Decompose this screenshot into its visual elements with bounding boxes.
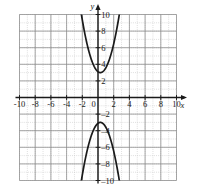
x-tick-label: -6 bbox=[47, 99, 54, 109]
graph-figure: -10-8-6-4-22468100–10–8–6–4–2246810xy bbox=[0, 0, 197, 193]
x-tick-label: 10 bbox=[172, 99, 181, 109]
y-tick-label: –8 bbox=[100, 159, 110, 169]
y-tick-label: –2 bbox=[100, 109, 110, 119]
coordinate-plane: -10-8-6-4-22468100–10–8–6–4–2246810xy bbox=[0, 0, 197, 193]
x-tick-label: 2 bbox=[112, 99, 116, 109]
y-tick-label: 6 bbox=[101, 43, 105, 53]
x-tick-label: 8 bbox=[159, 99, 163, 109]
x-tick-label: 6 bbox=[143, 99, 147, 109]
origin-label: 0 bbox=[91, 99, 95, 109]
y-tick-label: 2 bbox=[101, 76, 105, 86]
x-axis-variable-label: x bbox=[180, 100, 185, 110]
y-axis-variable-label: y bbox=[90, 1, 95, 11]
x-tick-label: -4 bbox=[63, 99, 71, 109]
x-tick-label: -8 bbox=[32, 99, 39, 109]
y-tick-label: 8 bbox=[101, 26, 105, 36]
x-tick-label: 4 bbox=[127, 99, 132, 109]
x-tick-label: -2 bbox=[79, 99, 86, 109]
y-tick-label: 10 bbox=[101, 10, 110, 20]
x-tick-label: -10 bbox=[14, 99, 25, 109]
y-tick-label: –6 bbox=[100, 142, 110, 152]
y-tick-label: –10 bbox=[100, 176, 114, 186]
